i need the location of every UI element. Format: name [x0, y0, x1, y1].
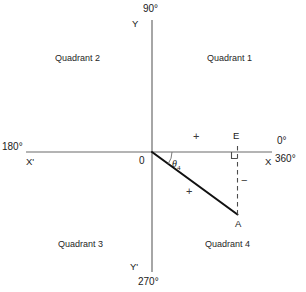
terminal-ray-oa [152, 152, 238, 215]
quadrant-diagram-svg [0, 0, 306, 292]
quadrant-label-3: Quadrant 3 [58, 240, 103, 249]
angle-label-theta4: θ4 [172, 159, 180, 172]
axis-label-y-prime: Y' [130, 262, 138, 272]
axis-label-360-degrees: 360° [275, 154, 296, 164]
axis-label-0-degrees: 0° [277, 136, 287, 146]
right-angle-marker [232, 152, 238, 159]
axis-label-180-degrees: 180° [2, 142, 23, 152]
figure-canvas: 90° Y Y' 270° 180° X' 0° X 360° 0 Quadra… [0, 0, 306, 292]
sign-adjacent-positive: + [193, 131, 199, 142]
sign-opposite-negative: − [241, 175, 247, 186]
origin-label: 0 [139, 156, 145, 166]
theta-subscript: 4 [177, 164, 181, 172]
quadrant-label-1: Quadrant 1 [207, 54, 252, 63]
point-label-a: A [235, 219, 241, 229]
axis-label-x-prime: X' [26, 157, 34, 167]
point-label-e: E [233, 131, 239, 141]
axis-label-90-degrees: 90° [143, 4, 158, 14]
axis-label-x: X [265, 157, 271, 167]
axis-label-270-degrees: 270° [138, 277, 159, 287]
quadrant-label-2: Quadrant 2 [55, 54, 100, 63]
sign-hypotenuse-positive: + [186, 186, 192, 197]
axis-label-y: Y [132, 19, 138, 29]
quadrant-label-4: Quadrant 4 [205, 240, 250, 249]
